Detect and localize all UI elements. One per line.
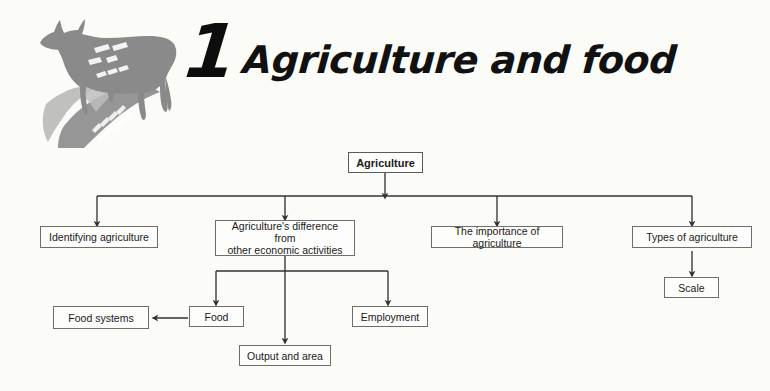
node-scale[interactable]: Scale	[664, 277, 719, 298]
node-food-systems[interactable]: Food systems	[53, 306, 149, 329]
agriculture-flowchart: Agriculture Identifying agriculture Agri…	[0, 0, 770, 391]
node-importance-of-agriculture[interactable]: The importance of agriculture	[431, 226, 563, 248]
page-root: 1 Agriculture and food	[0, 0, 770, 391]
node-types-of-agriculture[interactable]: Types of agriculture	[632, 226, 752, 248]
node-agriculture[interactable]: Agriculture	[348, 152, 423, 173]
node-identifying-agriculture[interactable]: Identifying agriculture	[40, 226, 158, 248]
node-agriculture-difference[interactable]: Agriculture's difference from other econ…	[215, 220, 355, 256]
flowchart-connectors	[0, 0, 770, 391]
node-food[interactable]: Food	[189, 306, 244, 327]
node-output-and-area[interactable]: Output and area	[239, 345, 331, 366]
node-employment[interactable]: Employment	[352, 306, 428, 327]
